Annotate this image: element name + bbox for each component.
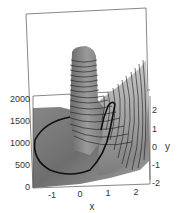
x-tick: -1 — [48, 190, 56, 200]
z-tick: 2000 — [10, 94, 30, 104]
y-axis: 2 1 0 -1 -2 y — [150, 96, 170, 188]
y-tick: 2 — [152, 105, 157, 115]
x-tick: 2 — [133, 187, 138, 197]
x-axis-title: x — [90, 201, 95, 212]
z-tick: 1000 — [10, 138, 30, 148]
surface-peak — [70, 46, 104, 155]
x-axis: -1 0 1 2 x — [33, 184, 150, 212]
surface-plot: 2000 1500 1000 500 0 -1 0 1 2 x 2 1 0 -1… — [0, 0, 177, 213]
z-tick: 1500 — [10, 116, 30, 126]
y-tick: -2 — [152, 178, 160, 188]
z-tick: 500 — [15, 160, 30, 170]
y-axis-title: y — [165, 141, 170, 152]
z-tick: 0 — [25, 182, 30, 192]
x-tick: 1 — [105, 188, 110, 198]
x-tick: 0 — [77, 189, 82, 199]
y-tick: 0 — [152, 142, 157, 152]
y-tick: 1 — [152, 124, 157, 134]
y-tick: -1 — [152, 160, 160, 170]
